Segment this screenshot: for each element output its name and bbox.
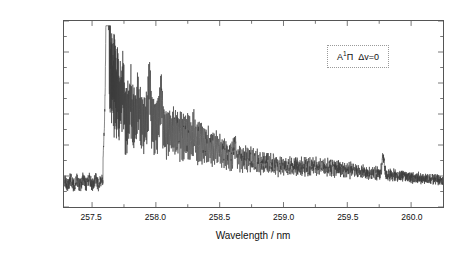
- x-tick-label: 258.5: [209, 212, 230, 222]
- annotation-delta-v: Δv=0: [358, 52, 379, 62]
- x-tick-label: 258.0: [145, 212, 166, 222]
- band-annotation-box: A1Π Δv=0: [327, 45, 389, 68]
- x-tick-label: 259.5: [337, 212, 358, 222]
- annotation-term-symbol: Π: [347, 52, 354, 62]
- spectrum-figure: 0.0040.0060.0080.0100.0120.0140.016 Abso…: [0, 0, 465, 272]
- x-tick-label: 257.5: [81, 212, 102, 222]
- x-tick-label: 260.0: [401, 212, 422, 222]
- x-axis-title: Wavelength / nm: [216, 230, 291, 241]
- x-tick-label: 259.0: [273, 212, 294, 222]
